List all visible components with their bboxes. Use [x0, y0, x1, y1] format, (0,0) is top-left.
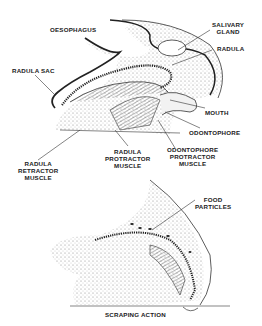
label-odontophore: ODONTOPHORE [189, 129, 240, 136]
top-diagram [52, 20, 222, 135]
label-odontophore-protractor-line2: PROTRACTOR [167, 153, 218, 160]
label-radula-protractor-line2: PROTRACTOR [105, 155, 151, 162]
label-salivary-gland-line2: GLAND [212, 28, 244, 35]
label-food-particles-line1: FOOD [195, 196, 231, 203]
label-salivary-gland-line1: SALIVARY [212, 21, 244, 28]
label-radula-protractor-muscle: RADULA PROTRACTOR MUSCLE [105, 148, 151, 169]
label-radula: RADULA [217, 45, 244, 52]
label-radula-protractor-line1: RADULA [105, 148, 151, 155]
label-odontophore-protractor-line1: ODONTOPHORE [167, 146, 218, 153]
label-odontophore-protractor-line3: MUSCLE [167, 160, 218, 167]
label-oesophagus: OESOPHAGUS [50, 26, 96, 33]
label-radula-retractor-muscle: RADULA RETRACTOR MUSCLE [18, 160, 59, 181]
label-radula-retractor-line1: RADULA [18, 160, 59, 167]
label-scraping-action: SCRAPING ACTION [105, 311, 166, 318]
label-food-particles: FOOD PARTICLES [195, 196, 231, 210]
label-radula-retractor-line2: RETRACTOR [18, 167, 59, 174]
label-mouth: MOUTH [205, 109, 229, 116]
label-radula-protractor-line3: MUSCLE [105, 162, 151, 169]
label-salivary-gland: SALIVARY GLAND [212, 21, 244, 35]
label-food-particles-line2: PARTICLES [195, 203, 231, 210]
label-radula-sac: RADULA SAC [12, 67, 55, 74]
label-odontophore-protractor-muscle: ODONTOPHORE PROTRACTOR MUSCLE [167, 146, 218, 167]
label-radula-retractor-line3: MUSCLE [18, 174, 59, 181]
